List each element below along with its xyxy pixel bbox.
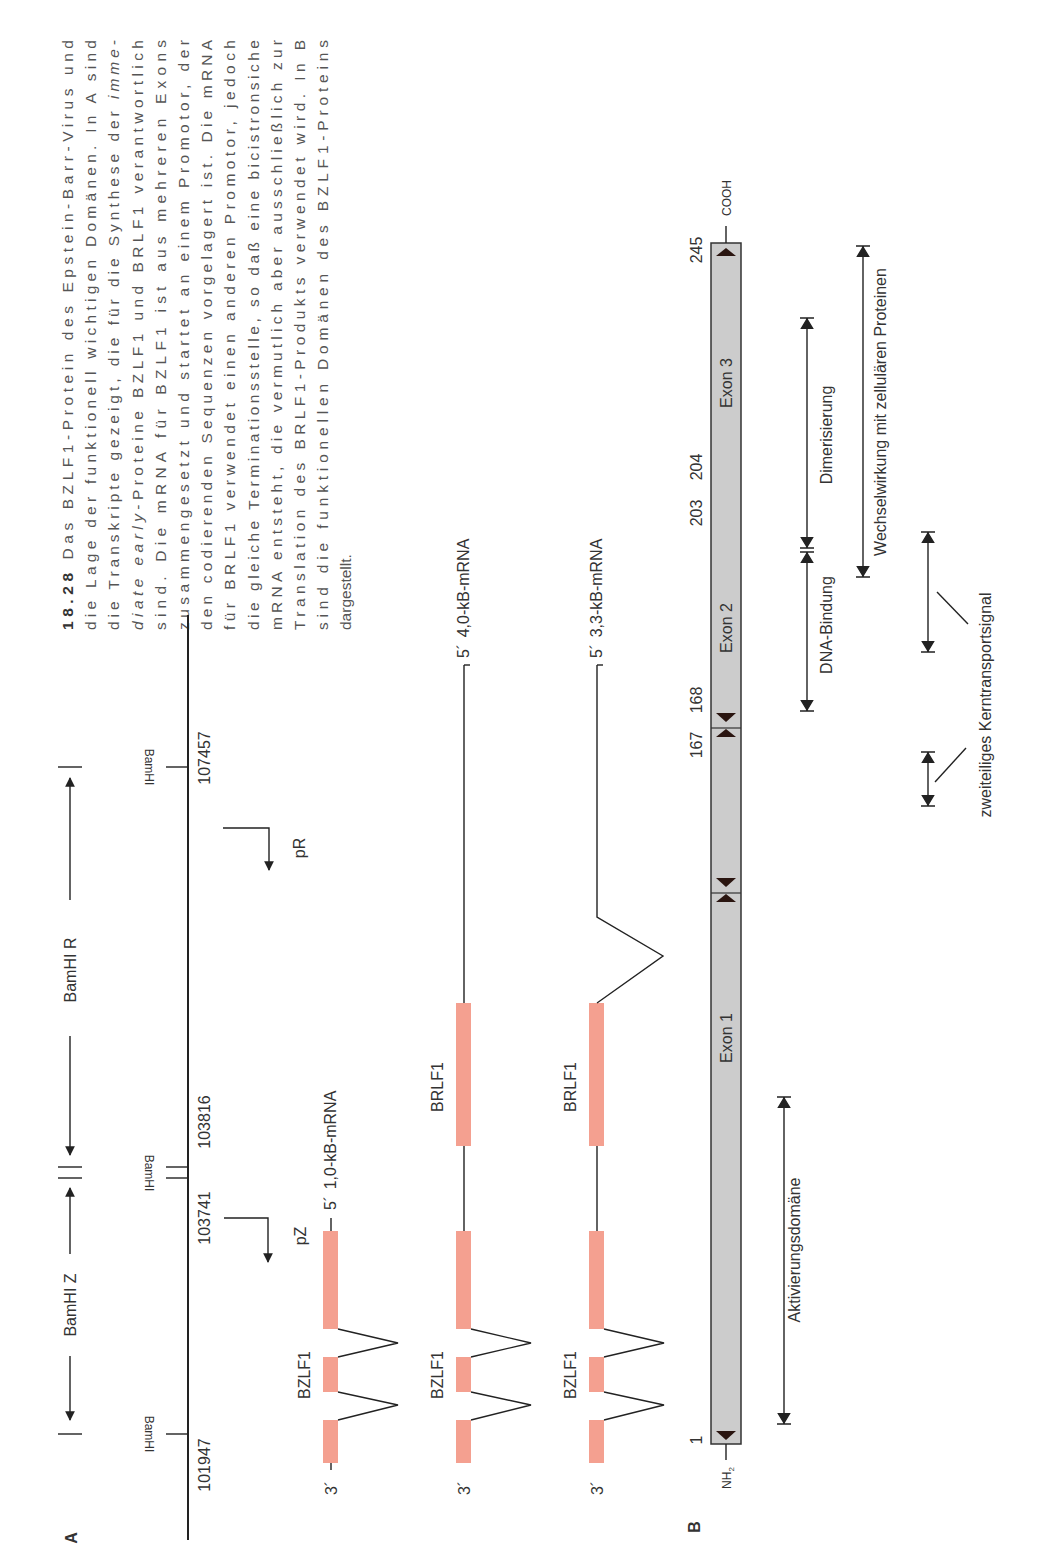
svg-text:DNA-Bindung: DNA-Bindung	[818, 576, 835, 674]
caption-line: 18.28 Das BZLF1-Protein des Epstein-Barr…	[59, 40, 76, 630]
position-168: 168	[688, 687, 705, 714]
bamhi-site-103741: BamHI 103741 103816	[58, 1095, 213, 1244]
svg-text:5´: 5´	[455, 644, 472, 658]
domain-dimerisierung: Dimerisierung	[807, 318, 835, 548]
caption-line: Translation des BRLF1-Produkts verwendet…	[291, 40, 308, 630]
panel-b-label: B	[686, 1521, 703, 1533]
coordinate-label: 101947	[196, 1438, 213, 1491]
svg-text:zweiteiliges Kerntransportsign: zweiteiliges Kerntransportsignal	[977, 593, 994, 818]
transcript-1-0kb: 3´ BZLF1 5´ 1,0-kB-mRNA	[296, 1090, 398, 1495]
caption-line: zusammengesetzt und startet an einem Pro…	[175, 40, 192, 630]
coordinate-label: 103741	[196, 1191, 213, 1244]
svg-text:BamHI: BamHI	[142, 749, 156, 786]
caption-line: sind. Die mRNA für BZLF1 ist aus mehrere…	[152, 40, 169, 630]
caption-line: die Transkripte gezeigt, die für die Syn…	[105, 40, 122, 630]
svg-text:BZLF1: BZLF1	[296, 1351, 313, 1399]
transcript-name: 4,0-kB-mRNA	[455, 538, 472, 637]
svg-text:BZLF1: BZLF1	[429, 1351, 446, 1399]
bamhi-site-107457: BamHI 107457	[58, 731, 213, 785]
panel-a-label: A	[63, 1532, 80, 1544]
bamhi-site-101947: BamHI 101947	[58, 1416, 213, 1492]
svg-text:3´: 3´	[589, 1481, 606, 1495]
transcript-name: 1,0-kB-mRNA	[322, 1090, 339, 1189]
fragment-bamhi-r: BamHI R	[62, 778, 79, 1155]
transcript-name: 3,3-kB-mRNA	[588, 538, 605, 637]
svg-text:BamHI Z: BamHI Z	[62, 1273, 79, 1336]
svg-text:BamHI: BamHI	[142, 1155, 156, 1192]
caption-line: den codierenden Sequenzen vorgelagert is…	[198, 39, 215, 630]
svg-text:3´: 3´	[323, 1481, 340, 1495]
svg-text:BamHI R: BamHI R	[62, 938, 79, 1003]
exon-2-label: Exon 2	[718, 603, 735, 653]
svg-text:BRLF1: BRLF1	[562, 1062, 579, 1112]
coordinate-label: 107457	[196, 731, 213, 784]
coordinate-label: 103816	[196, 1095, 213, 1148]
svg-text:BZLF1: BZLF1	[562, 1351, 579, 1399]
svg-text:Aktivierungsdomäne: Aktivierungsdomäne	[786, 1177, 803, 1322]
svg-text:Wechselwirkung mit zellulären: Wechselwirkung mit zellulären Proteinen	[872, 268, 889, 556]
figure-canvas: 18.28 Das BZLF1-Protein des Epstein-Barr…	[0, 0, 1042, 1553]
caption-line: sind die funktionellen Domänen des BZLF1…	[314, 40, 331, 630]
promoter-pr: pR	[223, 828, 308, 870]
domain-dna-bindung: DNA-Bindung	[807, 552, 835, 711]
caption-line: dargestellt.	[337, 554, 354, 630]
position-204: 204	[688, 454, 705, 481]
panel-b: B NH2 COOH 1 167 168 203 204 245 Exon 1 …	[686, 180, 994, 1533]
promoter-pz: pZ	[224, 1218, 309, 1262]
domain-kerntransportsignal: zweiteiliges Kerntransportsignal	[928, 532, 994, 818]
svg-text:pR: pR	[291, 838, 308, 858]
svg-text:pZ: pZ	[292, 1226, 309, 1245]
exon-3-label: Exon 3	[718, 358, 735, 408]
svg-text:BamHI: BamHI	[142, 1416, 156, 1453]
caption-line: die gleiche Terminationsstelle, so daß e…	[245, 40, 262, 630]
position-1: 1	[688, 1435, 705, 1444]
protein-bar	[711, 243, 741, 1444]
transcript-3-3kb: 3´ BZLF1 BRLF1 5´ 3,3-kB-mRNA	[562, 538, 664, 1495]
caption-line: die Lage der funktionell wichtigen Domän…	[82, 40, 99, 630]
exon-1-label: Exon 1	[718, 1013, 735, 1063]
caption-line: für BRLF1 verwendet einen anderen Promot…	[221, 40, 238, 630]
position-245: 245	[688, 237, 705, 264]
figure-caption: 18.28 Das BZLF1-Protein des Epstein-Barr…	[59, 39, 354, 630]
fragment-bamhi-z: BamHI Z	[62, 1188, 79, 1420]
panel-a: A BamHI 101947 BamHI 103741 103816 BamHI…	[58, 538, 664, 1543]
caption-line: diate early-Proteine BZLF1 und BRLF1 ver…	[129, 40, 146, 630]
c-terminus-label: COOH	[720, 180, 734, 216]
svg-text:5´: 5´	[322, 1196, 339, 1210]
position-203: 203	[688, 500, 705, 527]
svg-text:BRLF1: BRLF1	[429, 1062, 446, 1112]
svg-text:Dimerisierung: Dimerisierung	[818, 386, 835, 485]
svg-text:3´: 3´	[456, 1481, 473, 1495]
domain-aktivierung: Aktivierungsdomäne	[784, 1097, 803, 1424]
caption-line: mRNA entsteht, die vermutlich aber aussc…	[268, 40, 285, 630]
transcript-4-0kb: 3´ BZLF1 BRLF1 5´ 4,0-kB-mRNA	[429, 538, 531, 1495]
domain-wechselwirkung: Wechselwirkung mit zellulären Proteinen	[863, 246, 889, 577]
position-167: 167	[688, 732, 705, 759]
n-terminus-label: NH2	[720, 1467, 736, 1489]
svg-text:5´: 5´	[588, 644, 605, 658]
